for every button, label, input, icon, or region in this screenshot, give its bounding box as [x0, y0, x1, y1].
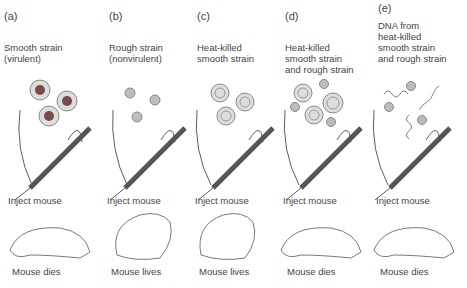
- mouse-alive-icon: [105, 0, 198, 288]
- outcome-label: Mouse dies: [380, 266, 429, 277]
- panel-d: (d) Heat-killed smooth strain and rough …: [281, 0, 374, 288]
- panel-b: (b) Rough strain (nonvirulent) Inject mo…: [105, 0, 198, 288]
- mouse-dead-icon: [0, 0, 93, 288]
- outcome-label: Mouse lives: [199, 266, 249, 277]
- panel-e: (e) DNA from heat-killed smooth strain a…: [374, 0, 467, 288]
- outcome-label: Mouse dies: [12, 266, 61, 277]
- mouse-dead-icon: [374, 0, 467, 288]
- mouse-alive-icon: [193, 0, 286, 288]
- mouse-dead-icon: [281, 0, 374, 288]
- outcome-label: Mouse dies: [287, 266, 336, 277]
- outcome-label: Mouse lives: [111, 266, 161, 277]
- panel-c: (c) Heat-killed smooth strain Inject mou…: [193, 0, 286, 288]
- panel-a: (a) Smooth strain (virulent) Inject mous…: [0, 0, 93, 288]
